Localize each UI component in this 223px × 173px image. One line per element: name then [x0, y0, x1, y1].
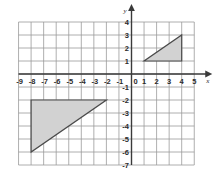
y-tick-label: -2	[122, 96, 129, 105]
x-tick-label: -8	[29, 77, 36, 86]
y-tick-label: -1	[122, 83, 129, 92]
y-axis-name-label: y	[123, 7, 128, 15]
x-tick-label: -7	[41, 77, 48, 86]
x-tick-label: 2	[155, 77, 159, 86]
y-tick-label: 3	[125, 31, 129, 40]
y-tick-label: -7	[122, 161, 129, 170]
coordinate-plane-figure: -9-8-7-6-5-4-3-2-1123454321-1-2-3-4-5-6-…	[0, 0, 223, 173]
x-tick-label: -2	[104, 77, 111, 86]
y-tick-label: 2	[125, 44, 129, 53]
x-tick-label: 5	[192, 77, 196, 86]
x-tick-label: -9	[16, 77, 23, 86]
y-tick-label: -5	[122, 135, 129, 144]
y-axis-arrow-icon	[128, 4, 135, 11]
y-tick-label: -6	[122, 148, 129, 157]
coordinate-plane-svg: -9-8-7-6-5-4-3-2-1123454321-1-2-3-4-5-6-…	[0, 0, 223, 173]
x-tick-label: 3	[167, 77, 171, 86]
y-tick-label: 4	[125, 18, 130, 27]
axis-tick-labels: -9-8-7-6-5-4-3-2-1123454321-1-2-3-4-5-6-…	[16, 7, 210, 170]
x-tick-label: -5	[66, 77, 73, 86]
y-tick-label: -3	[122, 109, 129, 118]
y-tick-label: -4	[122, 122, 129, 131]
x-axis-name-label: x	[205, 77, 210, 85]
grid-lines	[19, 22, 195, 165]
origin-label: 0	[134, 77, 138, 86]
x-tick-label: -4	[79, 77, 86, 86]
x-tick-label: -6	[54, 77, 61, 86]
x-tick-label: 1	[142, 77, 146, 86]
y-tick-label: 1	[125, 57, 129, 66]
x-tick-label: 4	[180, 77, 185, 86]
x-tick-label: -3	[92, 77, 99, 86]
